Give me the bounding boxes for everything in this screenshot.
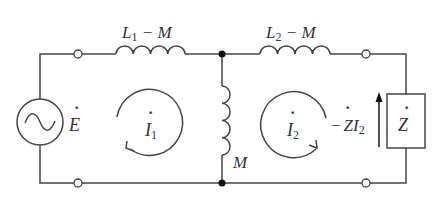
inductor-l1-icon (116, 46, 185, 54)
label-z-dot: · (404, 99, 409, 116)
label-i1-dot: · (148, 104, 153, 121)
loop-i2-arrow-icon (261, 92, 326, 158)
label-l2-m: L2 − M (265, 23, 316, 44)
label-i2: I2 (286, 120, 299, 142)
ac-source (17, 99, 63, 145)
label-i2-dot: · (290, 104, 295, 121)
label-z: Z (398, 115, 409, 135)
label-e: E (68, 115, 80, 135)
wire-left-bottom (40, 145, 74, 183)
circuit-diagram: L1 − M L2 − M M E · I1 · I2 · −ZI2 · Z · (0, 0, 436, 210)
label-zi2-dot: · (345, 99, 350, 116)
terminal-bottom-right (362, 179, 370, 187)
label-minus-zi2: −ZI2 (331, 116, 365, 137)
terminal-top-right (362, 50, 370, 58)
label-e-dot: · (74, 99, 79, 116)
inductor-m-icon (222, 86, 230, 155)
wire-left-top (40, 54, 74, 99)
wire-right-bottom (370, 148, 406, 183)
node-bottom (219, 180, 226, 187)
terminal-bottom-left (74, 179, 82, 187)
circuit-canvas: L1 − M L2 − M M E · I1 · I2 · −ZI2 · Z · (0, 0, 436, 210)
label-l1-m: L1 − M (121, 23, 172, 44)
inductor-l2-icon (260, 46, 330, 54)
label-m: M (232, 153, 248, 172)
voltage-arrow-icon (376, 92, 383, 147)
label-i1: I1 (144, 120, 157, 142)
terminal-top-left (74, 50, 82, 58)
node-top (219, 51, 226, 58)
wire-right-top (370, 54, 406, 94)
